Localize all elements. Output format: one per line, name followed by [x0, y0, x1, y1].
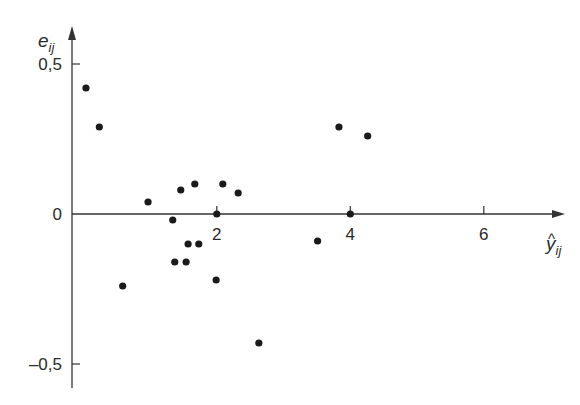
data-point — [177, 186, 184, 193]
data-point — [347, 210, 354, 217]
svg-text:yij: yij — [544, 233, 562, 258]
residual-scatter-plot: 0,50–0,5246 eij ^ yij — [0, 0, 580, 405]
data-point — [235, 189, 242, 196]
data-point — [96, 123, 103, 130]
data-point — [119, 282, 126, 289]
data-point — [144, 198, 151, 205]
data-point — [171, 258, 178, 265]
axes: 0,50–0,5246 — [29, 26, 565, 388]
data-point — [255, 339, 262, 346]
data-point — [314, 237, 321, 244]
x-axis-arrow-icon — [552, 210, 565, 218]
x-axis-label: ^ yij — [544, 230, 562, 258]
data-point — [195, 240, 202, 247]
data-point — [213, 210, 220, 217]
data-point — [184, 240, 191, 247]
y-axis-arrow-icon — [68, 26, 76, 40]
data-point — [191, 180, 198, 187]
x-tick-label: 4 — [346, 225, 355, 244]
data-point — [182, 258, 189, 265]
x-tick-label: 2 — [212, 225, 221, 244]
y-axis-label: eij — [38, 30, 55, 55]
y-tick-label: 0 — [53, 205, 62, 224]
data-point — [219, 180, 226, 187]
data-point — [82, 84, 89, 91]
data-points — [82, 84, 371, 346]
axis-labels: eij ^ yij — [38, 30, 562, 258]
data-point — [213, 276, 220, 283]
data-point — [335, 123, 342, 130]
y-tick-label: –0,5 — [29, 355, 62, 374]
x-tick-label: 6 — [479, 225, 488, 244]
data-point — [364, 132, 371, 139]
data-point — [169, 216, 176, 223]
y-tick-label: 0,5 — [38, 55, 62, 74]
